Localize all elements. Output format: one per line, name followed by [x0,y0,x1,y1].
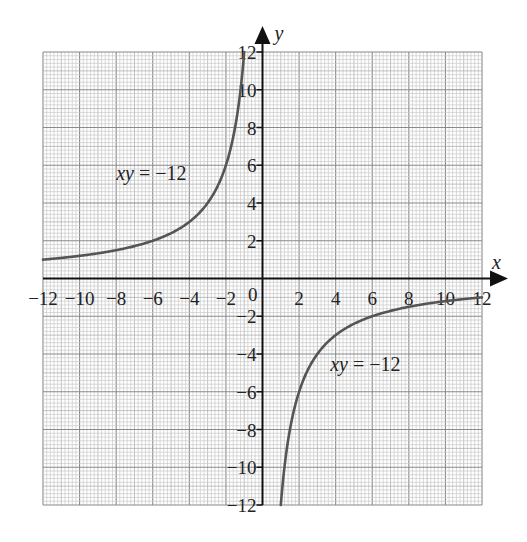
x-axis-label: x [491,251,501,273]
x-tick-label: −2 [216,288,236,309]
y-axis-arrow-icon [255,26,271,44]
y-tick-label: −2 [236,306,256,327]
y-tick-label: 8 [247,118,257,139]
y-tick-label: −10 [227,457,257,478]
y-tick-label: 4 [247,193,257,214]
y-tick-label: −8 [236,420,256,441]
curve-branch-2 [281,297,482,505]
x-tick-label: 6 [368,288,378,309]
x-axis-arrow-icon [490,271,508,287]
origin-label: 0 [248,284,258,305]
y-tick-label: 6 [247,155,257,176]
x-tick-label: −8 [106,288,126,309]
annotation-rest: = −12 [348,353,401,375]
x-tick-label: 2 [294,288,304,309]
y-tick-label: −4 [236,344,257,365]
y-tick-label: −12 [227,495,257,516]
curve-annotation-2: xy = −12 [329,353,400,376]
curve-branch-1 [43,52,244,260]
x-tick-label: −10 [65,288,95,309]
annotation-italic: xy [115,162,134,185]
y-tick-label: 12 [238,42,257,63]
hyperbola-chart: xy −12−10−8−6−4−224681012−12−10−8−6−4−22… [0,0,527,542]
y-axis-label: y [273,22,284,45]
y-tick-label: −6 [236,382,256,403]
annotation-italic: xy [329,353,348,376]
curve-annotation-1: xy = −12 [115,162,186,185]
y-tick-label: 2 [247,231,257,252]
x-tick-label: −4 [179,288,200,309]
annotation-rest: = −12 [134,162,187,184]
x-tick-label: 4 [331,288,341,309]
x-tick-label: −12 [28,288,58,309]
x-tick-label: −6 [143,288,163,309]
x-tick-label: 10 [436,288,455,309]
